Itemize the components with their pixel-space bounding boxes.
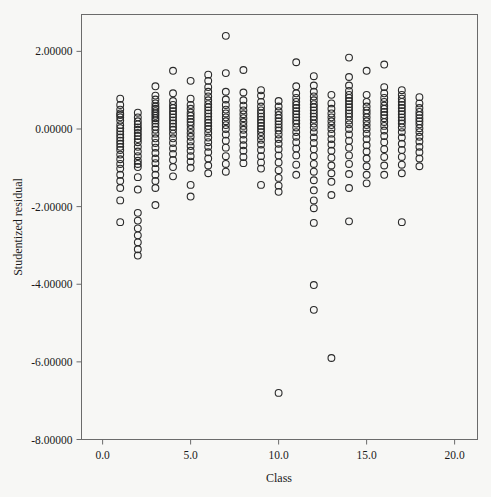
x-tick-label: 5.0	[183, 449, 198, 461]
y-axis-title: Studentized residual	[11, 178, 25, 276]
x-tick-label: 10.0	[269, 449, 289, 461]
x-tick-label: 20.0	[445, 449, 465, 461]
chart-background	[0, 0, 491, 497]
y-tick-label: -2.00000	[31, 201, 72, 213]
y-tick-label: -6.00000	[31, 356, 72, 368]
x-axis-title: Class	[266, 471, 292, 485]
scatter-plot-figure: 2.000000.00000-2.00000-4.00000-6.00000-8…	[0, 0, 491, 497]
y-tick-label: -8.00000	[31, 434, 72, 446]
y-tick-label: 2.00000	[35, 45, 73, 57]
x-tick-label: 15.0	[357, 449, 377, 461]
studentized-residual-scatter-chart: 2.000000.00000-2.00000-4.00000-6.00000-8…	[0, 0, 491, 497]
x-tick-label: 0.0	[95, 449, 110, 461]
y-tick-label: -4.00000	[31, 278, 72, 290]
y-tick-label: 0.00000	[35, 123, 73, 135]
